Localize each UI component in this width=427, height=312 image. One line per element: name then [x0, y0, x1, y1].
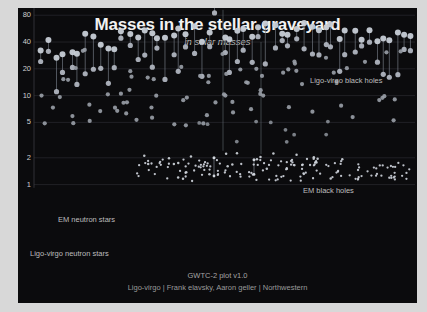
annotation-2: EM neutron stars [58, 215, 115, 224]
annotation-3: Ligo-virgo neutron stars [30, 249, 109, 258]
image-frame: Masses in the stellar graveyard in solar… [0, 0, 427, 312]
scatter-plot-svg [18, 8, 417, 303]
y-tick-1: 1 [18, 180, 31, 189]
footer-version: GWTC-2 plot v1.0 [18, 271, 417, 280]
footer-credit: Ligo-virgo | Frank elavsky, Aaron geller… [18, 283, 417, 292]
y-tick-5: 5 [18, 117, 31, 126]
y-tick-80: 80 [18, 10, 31, 19]
em-neutron-star-points [136, 158, 410, 182]
y-tick-2: 2 [18, 153, 31, 162]
y-tick-20: 20 [18, 64, 31, 73]
annotation-1: EM black holes [303, 186, 354, 195]
y-tick-10: 10 [18, 91, 31, 100]
y-tick-40: 40 [18, 37, 31, 46]
annotation-0: Ligo-virgo black holes [310, 76, 383, 85]
chart-canvas: Masses in the stellar graveyard in solar… [18, 8, 417, 303]
